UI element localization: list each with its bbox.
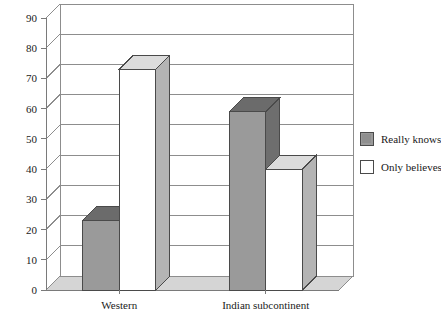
x-category-label: Indian subcontinent [222,299,309,311]
y-tick-label: 50 [26,133,38,145]
y-tick-label: 80 [26,42,38,54]
y-tick-labels: 0102030405060708090 [26,12,38,296]
x-category-labels: WesternIndian subcontinent [101,290,309,311]
legend-swatch-inner [362,134,371,143]
bar-chart: 0102030405060708090 WesternIndian subcon… [0,0,441,319]
legend: Really knowsOnly believes [360,132,441,173]
legend-label: Really knows [381,133,441,145]
y-tick-label: 40 [26,163,38,175]
y-tick-label: 60 [26,103,38,115]
x-category-label: Western [101,299,137,311]
y-tick-label: 0 [32,284,38,296]
legend-swatch [360,160,373,173]
y-tick-label: 30 [26,193,38,205]
bar-western-only-believes [119,55,170,290]
bar-indian-subcontinent-only-believes [266,155,317,290]
y-tick-label: 20 [26,224,38,236]
legend-label: Only believes [381,161,441,173]
y-tick-label: 70 [26,72,38,84]
chart-canvas: 0102030405060708090 WesternIndian subcon… [0,0,441,319]
y-tick-label: 90 [26,12,38,24]
y-tick-label: 10 [26,254,38,266]
